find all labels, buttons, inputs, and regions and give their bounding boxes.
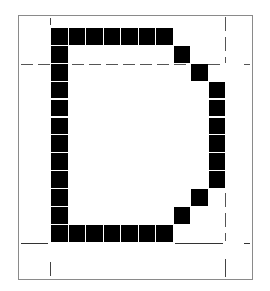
pixel-cell bbox=[51, 82, 68, 99]
right-guide-bottom-tick bbox=[225, 259, 226, 277]
baseline-guide-tick-right bbox=[244, 243, 250, 244]
pixel-cell bbox=[121, 28, 138, 45]
pixel-cell bbox=[51, 135, 68, 152]
pixel-cell bbox=[51, 171, 68, 188]
pixel-cell bbox=[51, 118, 68, 135]
pixel-cell bbox=[209, 118, 226, 135]
pixel-cell bbox=[209, 153, 226, 170]
pixel-cell bbox=[209, 171, 226, 188]
pixel-cell bbox=[191, 189, 208, 206]
pixel-cell bbox=[139, 28, 156, 45]
pixel-cell bbox=[104, 28, 121, 45]
baseline-guide-left bbox=[21, 243, 48, 244]
pixel-cell bbox=[104, 225, 121, 242]
pixel-cell bbox=[139, 225, 156, 242]
pixel-cell bbox=[174, 207, 191, 224]
pixel-cell bbox=[51, 225, 68, 242]
pixel-cell bbox=[51, 207, 68, 224]
pixel-cell bbox=[51, 28, 68, 45]
x-height-guide-tick-right bbox=[244, 64, 250, 65]
pixel-cell bbox=[209, 100, 226, 117]
pixel-cell bbox=[69, 225, 86, 242]
pixel-cell bbox=[51, 64, 68, 81]
left-guide-top-tick bbox=[50, 18, 51, 25]
pixel-cell bbox=[51, 189, 68, 206]
pixel-cell bbox=[51, 46, 68, 63]
pixel-cell bbox=[209, 82, 226, 99]
right-guide-line-top bbox=[225, 17, 226, 63]
pixel-cell bbox=[156, 225, 173, 242]
right-guide-line-bottom bbox=[225, 193, 226, 241]
pixel-cell bbox=[86, 28, 103, 45]
pixel-cell bbox=[156, 28, 173, 45]
pixel-cell bbox=[121, 225, 138, 242]
pixel-cell bbox=[51, 100, 68, 117]
pixel-cell bbox=[174, 46, 191, 63]
pixel-cell bbox=[86, 225, 103, 242]
pixel-cell bbox=[51, 153, 68, 170]
pixel-cell bbox=[69, 28, 86, 45]
pixel-cell bbox=[191, 64, 208, 81]
left-guide-bottom-tick bbox=[50, 262, 51, 276]
baseline-guide-right bbox=[175, 243, 223, 244]
pixel-cell bbox=[209, 135, 226, 152]
